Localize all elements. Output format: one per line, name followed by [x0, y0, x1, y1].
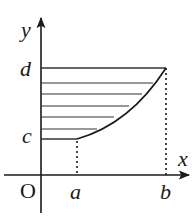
tick-label-b: b [160, 179, 171, 204]
origin-label: O [20, 178, 36, 203]
tick-label-c: c [22, 123, 32, 148]
y-axis-label: y [19, 17, 31, 42]
x-axis-label: x [177, 146, 188, 171]
tick-label-d: d [20, 56, 32, 81]
tick-label-a: a [70, 179, 81, 204]
curve [77, 68, 166, 139]
region-diagram: y d c O a b x [0, 0, 192, 221]
